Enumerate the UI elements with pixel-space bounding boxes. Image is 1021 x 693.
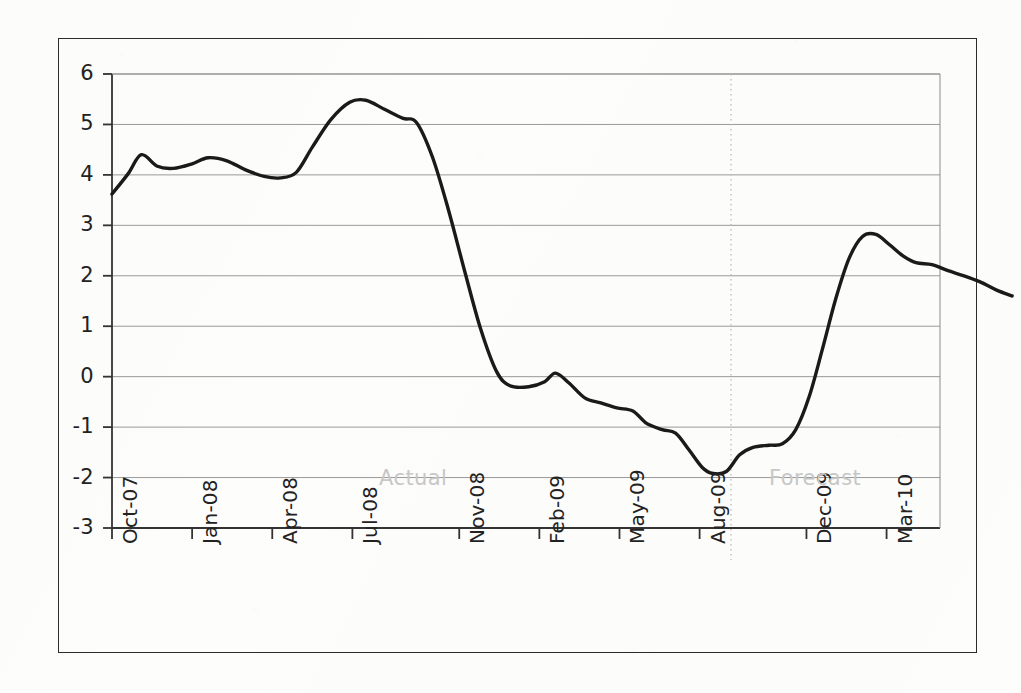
x-axis-tick-label: Jan-08 — [200, 479, 220, 544]
y-axis-tick-label: 4 — [48, 164, 94, 185]
y-axis-tick-label: 2 — [48, 265, 94, 286]
y-axis-tick-label: -2 — [48, 467, 94, 488]
y-axis-tick-label: 0 — [48, 366, 94, 387]
x-axis-tick-label: Mar-10 — [895, 474, 915, 544]
x-axis-tick-label: Apr-08 — [280, 477, 300, 544]
x-axis-tick-label: Nov-08 — [467, 472, 487, 544]
line-chart-plot — [0, 0, 1021, 693]
y-axis-tick-label: -3 — [48, 517, 94, 538]
x-axis-tick-label: May-09 — [627, 469, 647, 544]
y-axis-tick-label: -1 — [48, 416, 94, 437]
y-axis-tick-label: 5 — [48, 113, 94, 134]
y-axis-tick-label: 6 — [48, 63, 94, 84]
x-axis-tick-label: Aug-09 — [708, 471, 728, 544]
y-axis-ticks-group — [103, 74, 112, 528]
x-axis-tick-label: Oct-07 — [120, 476, 140, 544]
series-line-1 — [112, 100, 1012, 474]
region-annotation-actual: Actual — [379, 466, 447, 490]
region-annotation-forecast: Forecast — [769, 466, 861, 490]
y-axis-tick-label: 3 — [48, 214, 94, 235]
x-axis-ticks-group — [112, 528, 887, 539]
y-axis-tick-label: 1 — [48, 315, 94, 336]
gridlines-group — [112, 74, 940, 478]
x-axis-tick-label: Jul-08 — [360, 486, 380, 544]
x-axis-tick-label: Feb-09 — [547, 475, 567, 544]
